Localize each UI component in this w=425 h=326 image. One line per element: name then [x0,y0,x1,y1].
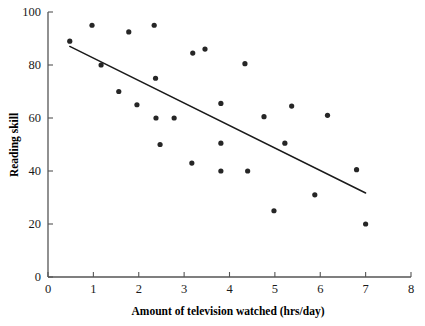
x-tick-label-8: 8 [408,282,414,296]
data-point-6 [152,23,157,28]
data-point-3 [116,89,121,94]
data-point-24 [325,113,330,118]
data-point-23 [312,192,317,197]
data-point-19 [261,114,266,119]
plot-canvas: 012345678020406080100 Amount of televisi… [0,0,425,326]
x-tick-label-5: 5 [272,282,278,296]
data-point-21 [282,141,287,146]
data-point-2 [98,62,103,67]
tick-marks [48,12,411,277]
data-point-15 [218,141,223,146]
y-tick-label-60: 60 [29,111,42,125]
axes [48,12,411,277]
x-tick-label-4: 4 [226,282,233,296]
data-point-16 [218,168,223,173]
y-tick-label-80: 80 [29,58,42,72]
y-tick-label-0: 0 [35,270,41,284]
data-point-5 [134,102,139,107]
x-tick-label-0: 0 [45,282,51,296]
data-point-8 [153,115,158,120]
data-point-18 [245,168,250,173]
x-tick-label-6: 6 [317,282,323,296]
data-point-14 [218,101,223,106]
x-axis-title: Amount of television watched (hrs/day) [132,305,325,318]
y-axis-title: Reading skill [8,113,21,177]
data-point-7 [153,76,158,81]
scatter-plot-figure: 012345678020406080100 Amount of televisi… [0,0,425,326]
x-tick-label-7: 7 [363,282,369,296]
data-point-0 [67,39,72,44]
y-tick-label-100: 100 [22,5,41,19]
data-point-26 [363,221,368,226]
data-point-12 [190,50,195,55]
regression-line-path [70,46,366,193]
data-point-25 [354,167,359,172]
data-point-17 [242,61,247,66]
data-point-1 [89,23,94,28]
regression-line [70,46,366,193]
x-tick-label-1: 1 [90,282,96,296]
data-point-20 [271,208,276,213]
data-point-4 [126,29,131,34]
x-tick-label-3: 3 [181,282,187,296]
tick-labels: 012345678020406080100 [22,5,414,296]
data-point-22 [289,103,294,108]
x-tick-label-2: 2 [136,282,142,296]
data-point-11 [189,160,194,165]
data-point-10 [172,115,177,120]
y-tick-label-20: 20 [29,217,42,231]
data-point-13 [202,47,207,52]
data-points [67,23,368,227]
y-tick-label-40: 40 [29,164,42,178]
data-point-9 [157,142,162,147]
